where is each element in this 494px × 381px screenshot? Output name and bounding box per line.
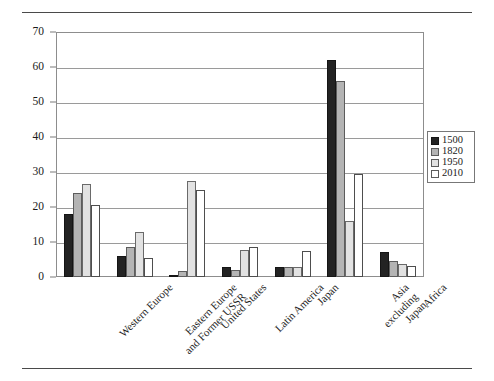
bar-1820-6 bbox=[336, 81, 345, 277]
y-tick-label-0: 0 bbox=[38, 271, 44, 283]
x-axis-category-labels: Western EuropeEastern Europeand Former U… bbox=[56, 277, 424, 372]
x-label-line: Western Europe bbox=[117, 281, 176, 340]
legend-swatch-icon-1950 bbox=[431, 159, 439, 167]
x-label-line: Africa bbox=[420, 281, 449, 310]
legend-label-1820: 1820 bbox=[442, 146, 463, 157]
bar-2010-1 bbox=[91, 205, 100, 277]
bar-1500-4 bbox=[222, 267, 231, 278]
bar-1950-5 bbox=[293, 267, 302, 278]
legend-label-1500: 1500 bbox=[442, 135, 463, 146]
bar-1950-3 bbox=[187, 181, 196, 277]
bars-group bbox=[56, 32, 424, 277]
y-tick-label-40: 40 bbox=[33, 131, 45, 143]
bar-1500-6 bbox=[327, 60, 336, 277]
bar-2010-5 bbox=[302, 251, 311, 277]
bar-1500-1 bbox=[64, 214, 73, 277]
bar-1950-6 bbox=[345, 221, 354, 277]
top-divider-rule bbox=[22, 12, 472, 13]
bar-group-asia-excluding-japan bbox=[319, 32, 372, 277]
bar-1950-4 bbox=[240, 250, 249, 277]
bar-group-united-states bbox=[161, 32, 214, 277]
y-tick-label-30: 30 bbox=[33, 166, 45, 178]
legend-label-1950: 1950 bbox=[442, 157, 463, 168]
bar-2010-7 bbox=[407, 266, 416, 277]
bar-group-eastern-europe-and-former-ussr bbox=[109, 32, 162, 277]
y-tick-label-70: 70 bbox=[33, 26, 45, 38]
legend-swatch-icon-2010 bbox=[431, 170, 439, 178]
chart-legend: 1500182019502010 bbox=[427, 131, 475, 183]
bar-group-africa bbox=[371, 32, 424, 277]
legend-label-2010: 2010 bbox=[442, 168, 463, 179]
bar-1820-7 bbox=[389, 261, 398, 277]
bar-group-japan bbox=[266, 32, 319, 277]
bar-group-western-europe bbox=[56, 32, 109, 277]
bar-1950-7 bbox=[398, 264, 407, 277]
bar-1820-1 bbox=[73, 193, 82, 277]
bar-group-latin-america bbox=[214, 32, 267, 277]
bar-1500-5 bbox=[275, 267, 284, 278]
bar-1950-2 bbox=[135, 232, 144, 278]
x-label-line: Latin America bbox=[273, 281, 327, 335]
x-label-latin-america: Latin America bbox=[273, 281, 327, 335]
x-label-africa: Africa bbox=[420, 281, 449, 310]
bar-1500-2 bbox=[117, 256, 126, 277]
legend-swatch-icon-1500 bbox=[431, 137, 439, 145]
bar-1820-5 bbox=[284, 267, 293, 278]
y-tick-label-50: 50 bbox=[33, 96, 45, 108]
bar-2010-6 bbox=[354, 174, 363, 277]
bar-2010-4 bbox=[249, 247, 258, 277]
bar-1820-4 bbox=[231, 270, 240, 277]
bar-2010-2 bbox=[144, 258, 153, 277]
x-label-western-europe: Western Europe bbox=[117, 281, 176, 340]
y-tick-label-10: 10 bbox=[33, 236, 45, 248]
y-axis: 010203040506070 bbox=[0, 32, 56, 277]
bar-1820-2 bbox=[126, 247, 135, 277]
bar-1500-7 bbox=[380, 252, 389, 277]
x-label-asia-excluding-japan: AsiaexcludingJapan bbox=[372, 281, 429, 338]
bar-2010-3 bbox=[196, 190, 205, 278]
bar-1950-1 bbox=[82, 184, 91, 277]
legend-swatch-icon-1820 bbox=[431, 148, 439, 156]
y-tick-label-20: 20 bbox=[33, 201, 45, 213]
bottom-divider-rule bbox=[22, 368, 472, 369]
legend-item-2010: 2010 bbox=[431, 168, 470, 179]
y-tick-label-60: 60 bbox=[33, 61, 45, 73]
